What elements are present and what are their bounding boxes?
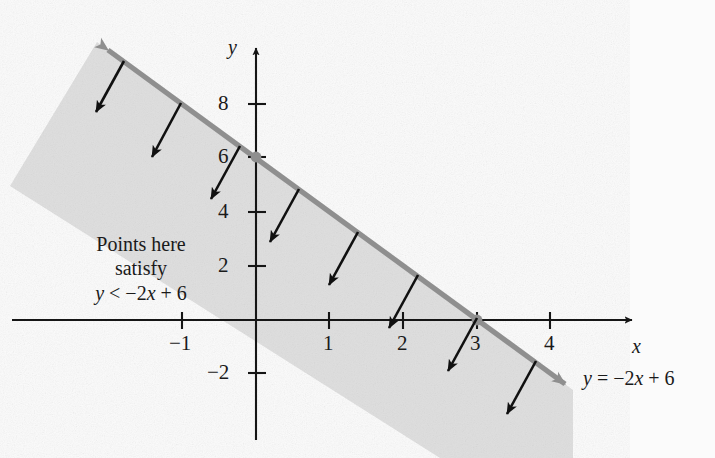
region-note-line1: Points here bbox=[56, 232, 226, 256]
y-tick-label-8: 8 bbox=[218, 93, 229, 114]
x-tick-label-3: 3 bbox=[470, 333, 481, 354]
x-tick-label-2: 2 bbox=[397, 333, 408, 354]
region-note-line2: satisfy bbox=[56, 256, 226, 280]
x-tick-label-4: 4 bbox=[544, 333, 555, 354]
region-note-x-var: x bbox=[147, 282, 156, 304]
x-tick-label-minus1: −1 bbox=[169, 333, 191, 354]
boundary-eq-y-var: y bbox=[583, 367, 592, 389]
region-note-relation: < −2 bbox=[104, 282, 147, 304]
graph-canvas bbox=[0, 0, 715, 458]
y-axis-label: y bbox=[228, 37, 237, 57]
y-tick-label-6: 6 bbox=[218, 146, 229, 167]
region-note-inequality: y < −2x + 6 bbox=[56, 281, 226, 305]
inequality-graph-figure: y x 8 6 4 2 −2 −1 1 2 3 4 Points here sa… bbox=[0, 0, 715, 458]
boundary-eq-x-var: x bbox=[634, 367, 643, 389]
y-tick-label-minus2: −2 bbox=[207, 362, 229, 383]
x-axis-label: x bbox=[632, 336, 641, 356]
region-note-y-var: y bbox=[95, 282, 104, 304]
boundary-equation-label: y = −2x + 6 bbox=[583, 368, 675, 388]
region-note: Points here satisfy y < −2x + 6 bbox=[56, 232, 226, 305]
y-intercept-dot bbox=[251, 152, 262, 163]
boundary-eq-constant: + 6 bbox=[643, 367, 674, 389]
y-tick-label-4: 4 bbox=[218, 201, 229, 222]
x-tick-label-1: 1 bbox=[323, 333, 334, 354]
region-note-constant: + 6 bbox=[156, 282, 187, 304]
boundary-eq-middle: = −2 bbox=[592, 367, 635, 389]
